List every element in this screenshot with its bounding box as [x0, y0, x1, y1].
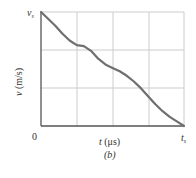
figure-caption: (b) — [104, 149, 116, 161]
y-top-label: vs — [27, 7, 34, 19]
origin-label: 0 — [32, 131, 37, 142]
y-axis-title: v (m/s) — [13, 68, 25, 96]
x-right-label: ts — [181, 132, 187, 144]
velocity-time-chart: vs 0 ts t (μs) v (m/s) (b) — [0, 0, 196, 178]
x-axis-title: t (μs) — [99, 136, 120, 148]
